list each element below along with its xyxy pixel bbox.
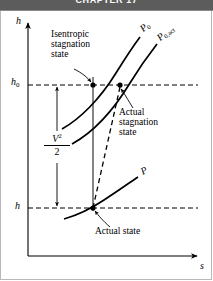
- actual-state-leader-line: [95, 211, 110, 227]
- actual-state-label: Actual state: [95, 227, 140, 237]
- h-tick-label: h: [15, 201, 20, 212]
- actual-stagnation-state-label: Actual stagnation state: [119, 108, 158, 138]
- h0-tick-label: h0: [11, 77, 20, 89]
- isentropic-stagnation-state-label: Isentropic stagnation state: [51, 30, 90, 60]
- ke-denominator: 2: [44, 147, 70, 157]
- kinetic-energy-term: V2 2: [44, 133, 70, 157]
- figure-container: CHAPTER 17: [0, 0, 213, 281]
- isentropic-stagnation-point: [90, 82, 95, 87]
- hs-diagram: h s h0 h P0 P0,act P Isentropic stagnati…: [0, 11, 213, 281]
- actual-state-point: [90, 205, 95, 210]
- isentropic-line-3: state: [51, 50, 90, 60]
- chapter-header-title: CHAPTER 17: [0, 0, 213, 5]
- y-axis-label: h: [16, 16, 21, 27]
- actual-stagnation-leader-line: [121, 89, 133, 108]
- actual-stagnation-point: [117, 82, 122, 87]
- ke-exponent: 2: [58, 132, 61, 139]
- p-curve: [64, 177, 138, 219]
- diagram-drawing: [0, 11, 213, 281]
- actual-stag-line-3: state: [119, 128, 158, 138]
- x-axis-label: s: [200, 261, 204, 272]
- isentropic-leader-line: [74, 69, 91, 82]
- chapter-header-bar: CHAPTER 17: [0, 0, 213, 10]
- h0-tick-subscript: 0: [16, 81, 20, 89]
- ke-numerator: V2: [44, 133, 70, 144]
